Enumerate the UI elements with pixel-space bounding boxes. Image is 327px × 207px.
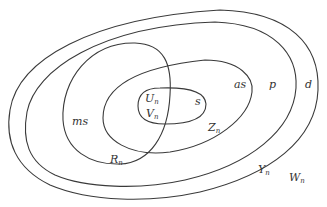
label-p: p <box>269 78 276 91</box>
curve-w-n <box>9 10 318 199</box>
label-u-n: Un <box>145 92 159 106</box>
nested-sets-diagram: d p as ms s Un Vn Zn Rn Yn Wn <box>0 0 327 207</box>
label-ms: ms <box>72 115 88 128</box>
label-r-n: Rn <box>109 153 123 167</box>
label-d: d <box>305 78 312 91</box>
label-as: as <box>234 78 247 91</box>
curve-y-n <box>25 22 296 186</box>
label-s: s <box>195 95 201 108</box>
curve-z-n <box>103 60 252 153</box>
label-w-n: Wn <box>289 171 305 185</box>
label-v-n: Vn <box>146 107 159 121</box>
label-z-n: Zn <box>207 121 221 135</box>
